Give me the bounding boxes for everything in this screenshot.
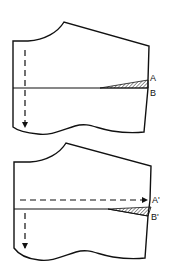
- pattern-diagram: [0, 0, 169, 270]
- top-piece-outline: [13, 22, 149, 134]
- bottom-pattern-piece: [14, 143, 151, 260]
- label-b: B: [150, 89, 156, 98]
- bottom-hatched-wedge: [108, 207, 151, 216]
- top-pattern-piece: [13, 22, 149, 134]
- label-b-prime: B': [151, 213, 159, 222]
- bottom-piece-outline: [14, 143, 151, 260]
- label-a-prime: A': [152, 196, 160, 205]
- label-a: A: [150, 74, 156, 83]
- top-hatched-wedge: [100, 80, 148, 88]
